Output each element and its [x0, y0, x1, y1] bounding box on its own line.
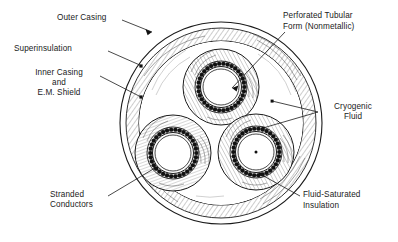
dot-cryogenic-fluid-b	[262, 127, 265, 130]
label-stranded-conductors-line2: Conductors	[50, 200, 93, 210]
label-perforated-form-line2: Form (Nonmetallic)	[283, 22, 354, 32]
label-fluid-saturated-line2: Insulation	[303, 201, 339, 211]
label-perforated-form-line1: Perforated Tubular	[283, 11, 353, 21]
lower-right-core-center-dot	[255, 151, 258, 154]
top-core	[183, 49, 259, 125]
label-inner-casing-line2: and	[17, 78, 101, 88]
label-inner-casing-line3: E.M. Shield	[17, 88, 101, 98]
arrowhead-outer-casing	[146, 29, 153, 35]
dot-stranded-conductors	[154, 167, 157, 170]
lower-left-core	[135, 115, 211, 191]
label-cryogenic-fluid-line2: Fluid	[325, 112, 381, 122]
label-outer-casing: Outer Casing	[57, 13, 106, 23]
dot-superinsulation	[139, 64, 142, 67]
dot-inner-casing	[139, 95, 142, 98]
dot-cryogenic-fluid-a	[271, 100, 274, 103]
lower-right-core	[218, 114, 294, 190]
label-fluid-saturated-line1: Fluid-Saturated	[303, 190, 360, 200]
figure-canvas: Outer Casing Superinsulation Inner Casin…	[0, 0, 398, 242]
label-superinsulation: Superinsulation	[14, 44, 72, 54]
label-inner-casing-line1: Inner Casing	[17, 68, 101, 78]
leader-superinsulation	[108, 51, 142, 66]
label-stranded-conductors-line1: Stranded	[50, 190, 84, 200]
label-cryogenic-fluid-line1: Cryogenic	[325, 102, 381, 112]
dot-fluid-saturated	[259, 173, 262, 176]
